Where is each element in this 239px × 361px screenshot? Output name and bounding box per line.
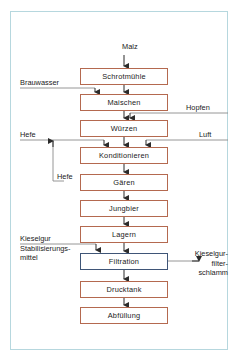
input-label-malz: Malz (122, 42, 138, 52)
side-label-kieselgur-stabilisierungsmittel: Kieselgur Stabilisierungs- mittel (20, 234, 71, 263)
process-node-abfuellung[interactable]: Abfüllung (80, 307, 168, 324)
brewing-process-diagram: Malz Schrotmühle Maischen Würzen Konditi… (0, 0, 239, 361)
process-node-lagern[interactable]: Lagern (80, 226, 168, 243)
process-node-jungbier[interactable]: Jungbier (80, 200, 168, 217)
process-node-konditionieren[interactable]: Konditionieren (80, 147, 168, 164)
process-node-drucktank[interactable]: Drucktank (80, 281, 168, 298)
side-label-hefe-left: Hefe (20, 130, 36, 140)
side-label-hefe-recycle: Hefe (57, 172, 73, 182)
side-label-hopfen: Hopfen (186, 103, 210, 113)
process-node-schrotmuehle[interactable]: Schrotmühle (80, 68, 168, 85)
process-node-wuerzen[interactable]: Würzen (80, 120, 168, 137)
process-node-gaeren[interactable]: Gären (80, 174, 168, 191)
process-node-filtration[interactable]: Filtration (80, 253, 168, 270)
side-label-luft: Luft (199, 130, 211, 140)
side-label-kieselgurfilterschlamm: Kieselgur- filter- schlamm (174, 249, 228, 278)
side-label-brauwasser: Brauwasser (20, 78, 59, 88)
process-node-maischen[interactable]: Maischen (80, 94, 168, 111)
